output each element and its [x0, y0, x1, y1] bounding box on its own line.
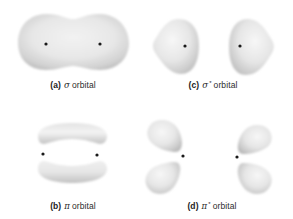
- antibonding-asterisk: *: [209, 80, 211, 86]
- caption-tag: (c): [189, 80, 200, 90]
- nucleus-dot: [235, 155, 238, 158]
- sigma-orbital-lobe: [18, 14, 129, 70]
- pi-upper-lobe: [38, 123, 107, 144]
- caption-tag: (d): [187, 201, 198, 211]
- pi-lower-lobe: [38, 161, 107, 183]
- caption-a: (a)σorbital: [50, 80, 95, 90]
- caption-tag: (a): [50, 80, 61, 90]
- sigma-symbol: σ: [64, 80, 70, 90]
- nucleus-dot: [183, 44, 186, 47]
- sigma-star-right-lobe: [229, 19, 274, 75]
- panel-c-sigma-star-orbital: [153, 19, 274, 75]
- caption-d: (d)π*orbital: [187, 201, 236, 211]
- caption-b: (b)πorbital: [50, 201, 96, 211]
- nucleus-dot: [41, 152, 44, 155]
- caption-word: orbital: [72, 80, 96, 90]
- pi-symbol: π: [202, 201, 208, 211]
- panel-a-sigma-orbital: [18, 14, 129, 70]
- nucleus-dot: [98, 42, 101, 45]
- nucleus-dot: [44, 42, 47, 45]
- pi-star-upper-left-lobe: [147, 120, 182, 152]
- caption-word: orbital: [72, 201, 96, 211]
- sigma-symbol: σ: [202, 80, 208, 90]
- pi-star-upper-right-lobe: [238, 125, 272, 154]
- panel-b-pi-orbital: [38, 123, 107, 183]
- caption-c: (c)σ*orbital: [189, 80, 238, 90]
- pi-star-lower-left-lobe: [145, 162, 180, 194]
- panel-d-pi-star-orbital: [145, 120, 271, 194]
- pi-symbol: π: [64, 201, 70, 211]
- caption-word: orbital: [214, 80, 238, 90]
- pi-star-lower-right-lobe: [238, 163, 272, 194]
- antibonding-asterisk: *: [208, 201, 210, 207]
- caption-tag: (b): [50, 201, 61, 211]
- orbital-diagram: [0, 0, 293, 219]
- sigma-star-left-lobe: [153, 19, 199, 74]
- nucleus-dot: [181, 154, 184, 157]
- caption-word: orbital: [213, 201, 237, 211]
- nucleus-dot: [95, 153, 98, 156]
- nucleus-dot: [238, 44, 241, 47]
